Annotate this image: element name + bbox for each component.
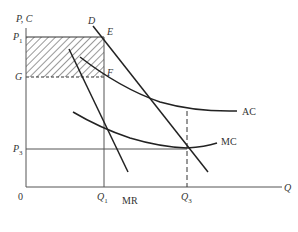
q1-label: Q1 xyxy=(97,191,108,205)
origin-label: 0 xyxy=(18,191,23,202)
mr-label: MR xyxy=(122,195,138,206)
mc-curve xyxy=(73,112,217,148)
p1-label: P1 xyxy=(12,31,23,45)
p3-label: P3 xyxy=(12,143,23,157)
point-f-label: F xyxy=(106,67,114,78)
point-e-label: E xyxy=(106,26,113,37)
x-axis-label: Q xyxy=(284,182,292,193)
y-axis-label: P, C xyxy=(15,13,33,24)
mc-label: MC xyxy=(221,136,237,147)
g-label: G xyxy=(15,71,22,82)
profit-area xyxy=(26,37,104,77)
demand-label: D xyxy=(87,15,96,26)
ac-label: AC xyxy=(242,106,256,117)
monopoly-diagram: P, C Q 0 P1 G P3 Q1 Q3 D E F MR AC MC xyxy=(0,0,298,232)
q3-label: Q3 xyxy=(181,191,192,205)
